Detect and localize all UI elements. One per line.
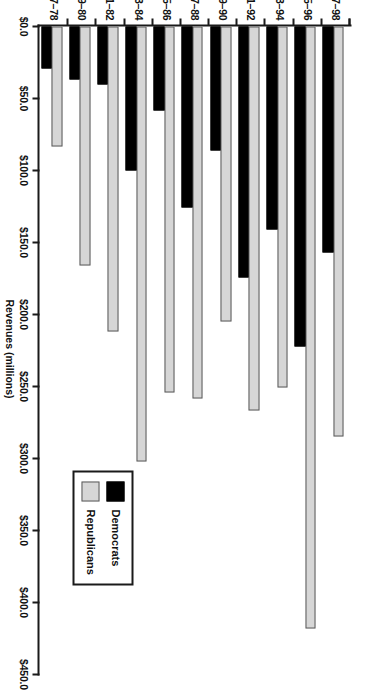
category-axis-label: 1983–84 xyxy=(132,0,144,20)
category-axis-tick xyxy=(207,18,209,25)
value-axis-tick xyxy=(32,313,39,315)
value-axis-tick xyxy=(32,457,39,459)
value-axis-tick xyxy=(32,529,39,531)
category-axis-tick xyxy=(66,18,68,25)
category-axis-label: 1989–90 xyxy=(216,0,228,20)
category-axis-tick xyxy=(151,18,153,25)
bar-republicans xyxy=(192,26,203,398)
value-axis-tick-label: $100.0 xyxy=(17,155,29,186)
chart-legend: DemocratsRepublicans xyxy=(72,470,133,585)
value-axis-tick-label: $50.0 xyxy=(17,85,29,110)
bar-republicans xyxy=(277,26,288,387)
bar-republicans xyxy=(107,26,118,331)
bar-republicans xyxy=(164,26,175,392)
legend-swatch-icon xyxy=(106,481,124,501)
value-axis-line xyxy=(37,24,39,675)
chart-screenshot: $0.0$50.0$100.0$150.0$200.0$250.0$300.0$… xyxy=(0,0,365,697)
category-axis-label: 1993–94 xyxy=(273,0,285,20)
legend-item-label: Republicans xyxy=(84,509,96,574)
value-axis-tick-label: $200.0 xyxy=(17,299,29,330)
bar-democrats xyxy=(97,26,108,84)
bar-republicans xyxy=(248,26,259,410)
bar-chart: $0.0$50.0$100.0$150.0$200.0$250.0$300.0$… xyxy=(0,0,365,697)
bar-republicans xyxy=(51,26,62,146)
category-axis-tick xyxy=(235,18,237,25)
legend-item-dem: Democrats xyxy=(106,481,124,574)
category-axis-tick xyxy=(179,18,181,25)
category-axis-tick xyxy=(94,18,96,25)
bar-democrats xyxy=(210,26,221,150)
value-axis-tick-label: $0.0 xyxy=(17,16,29,36)
category-axis-label: 1981–82 xyxy=(103,0,115,20)
bar-democrats xyxy=(125,26,136,170)
category-axis-tick xyxy=(123,18,125,25)
bar-republicans xyxy=(333,26,344,436)
value-axis-tick-label: $300.0 xyxy=(17,443,29,474)
plot-area: $0.0$50.0$100.0$150.0$200.0$250.0$300.0$… xyxy=(0,0,365,697)
legend-item-label: Democrats xyxy=(109,509,121,566)
value-axis-tick xyxy=(32,241,39,243)
bar-republicans xyxy=(79,26,90,265)
value-axis-tick xyxy=(32,97,39,99)
category-axis-tick xyxy=(320,18,322,25)
category-axis-label: 1977–78 xyxy=(47,0,59,20)
bar-democrats xyxy=(294,26,305,346)
value-axis-tick-label: $450.0 xyxy=(17,659,29,690)
category-axis-label: 1987–88 xyxy=(188,0,200,20)
legend-item-rep: Republicans xyxy=(81,481,99,574)
value-axis-tick-label: $400.0 xyxy=(17,587,29,618)
category-axis-label: 1991–92 xyxy=(244,0,256,20)
value-axis-tick xyxy=(32,601,39,603)
legend-swatch-icon xyxy=(81,481,99,501)
value-axis-tick xyxy=(32,385,39,387)
bar-republicans xyxy=(305,26,316,628)
value-axis-tick-label: $150.0 xyxy=(17,227,29,258)
category-axis-tick xyxy=(348,18,350,25)
category-axis-tick xyxy=(263,18,265,25)
bar-democrats xyxy=(182,26,193,207)
value-axis-tick-label: $250.0 xyxy=(17,371,29,402)
bar-democrats xyxy=(238,26,249,277)
bar-democrats xyxy=(322,26,333,252)
value-axis-tick xyxy=(32,673,39,675)
bar-democrats xyxy=(153,26,164,110)
category-axis-label: 1997–98 xyxy=(329,0,341,20)
bar-republicans xyxy=(220,26,231,321)
value-axis-tick-label: $350.0 xyxy=(17,515,29,546)
category-axis-label: 1995–96 xyxy=(301,0,313,20)
value-axis-tick xyxy=(32,25,39,27)
bar-democrats xyxy=(266,26,277,229)
category-axis-label: 1979–80 xyxy=(75,0,87,20)
bar-republicans xyxy=(136,26,147,461)
bar-democrats xyxy=(41,26,52,68)
value-axis-title: Revenues (millions) xyxy=(3,0,15,697)
value-axis-tick xyxy=(32,169,39,171)
category-axis-label: 1985–86 xyxy=(160,0,172,20)
bar-democrats xyxy=(69,26,80,79)
category-axis-tick xyxy=(292,18,294,25)
